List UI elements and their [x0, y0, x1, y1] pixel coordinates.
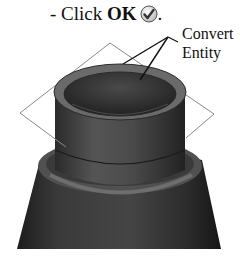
sketch-plane-front-right [186, 114, 214, 138]
cylinder-neck [54, 64, 186, 185]
model-viewport [0, 0, 240, 266]
